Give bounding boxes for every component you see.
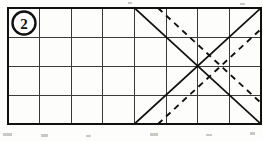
scan-speck-7 [240, 3, 245, 5]
scan-speck-0 [3, 133, 12, 136]
scan-speck-6 [128, 2, 132, 4]
scan-speck-1 [41, 134, 48, 137]
grid-figure-svg: 2 [0, 0, 263, 141]
scan-speck-4 [206, 134, 212, 136]
scan-speck-5 [250, 132, 255, 135]
figure-number-label: 2 [20, 16, 28, 32]
scan-speck-3 [150, 133, 158, 136]
figure-container: 2 [0, 0, 263, 141]
figure-number-badge: 2 [13, 12, 36, 35]
scan-speck-2 [86, 135, 91, 137]
